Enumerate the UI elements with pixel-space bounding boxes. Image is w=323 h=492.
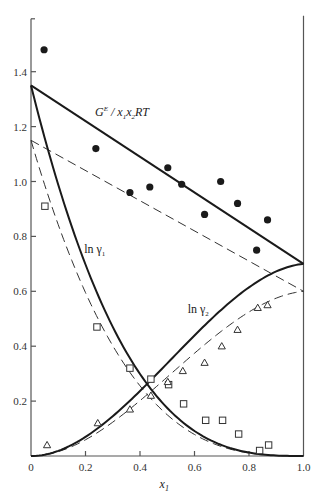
ge-label: GE / x1x2RT (95, 105, 150, 121)
open-square-marker (256, 447, 262, 453)
filled-circle-marker (178, 181, 185, 188)
chart: 0.20.40.60.81.01.21.400.20.40.60.81.0 GE… (0, 0, 323, 492)
y-tick-label: 0.8 (13, 230, 27, 242)
x-tick-label: 0.6 (188, 461, 202, 473)
filled-circle-marker (40, 46, 47, 53)
x-tick-label: 1.0 (297, 461, 311, 473)
open-triangle-marker (179, 367, 186, 373)
filled-circle-marker (264, 216, 271, 223)
x-axis-label: x1 (159, 477, 169, 492)
y-tick-label: 1.4 (13, 66, 27, 78)
data-markers (40, 46, 271, 454)
y-tick-label: 1.0 (13, 176, 27, 188)
filled-circle-marker (146, 183, 153, 190)
open-triangle-marker (218, 343, 225, 349)
open-square-marker (42, 203, 48, 209)
open-square-marker (127, 365, 133, 371)
axes: 0.20.40.60.81.01.21.400.20.40.60.81.0 (13, 16, 311, 473)
y-tick-label: 0.2 (13, 395, 27, 407)
ln-gamma2-label: ln γ2 (188, 302, 210, 318)
filled-circle-marker (217, 178, 224, 185)
filled-circle-marker (234, 200, 241, 207)
open-square-marker (235, 431, 241, 437)
x-tick-label: 0.4 (133, 461, 147, 473)
open-triangle-marker (201, 359, 208, 365)
ge-line-dashed (31, 140, 304, 291)
filled-circle-marker (164, 164, 171, 171)
ge-line-solid (31, 85, 304, 263)
open-triangle-marker (43, 441, 50, 447)
x-tick-label: 0 (28, 461, 34, 473)
filled-circle-marker (126, 189, 133, 196)
ln-gamma2-curve-dashed (31, 291, 304, 456)
fit-curves (31, 85, 304, 456)
open-square-marker (202, 417, 208, 423)
open-triangle-marker (94, 419, 101, 425)
x-tick-label: 0.2 (79, 461, 93, 473)
open-square-marker (148, 376, 154, 382)
open-square-marker (265, 442, 271, 448)
filled-circle-marker (201, 211, 208, 218)
curve-labels: GE / x1x2RT ln γ1 ln γ2 (84, 105, 209, 319)
ln-gamma2-curve-solid (31, 264, 304, 456)
open-square-marker (219, 417, 225, 423)
y-tick-label: 0.6 (13, 285, 27, 297)
y-tick-label: 0.4 (13, 340, 27, 352)
open-triangle-marker (234, 326, 241, 332)
open-triangle-marker (264, 301, 271, 307)
open-triangle-marker (254, 304, 261, 310)
ln-gamma1-label: ln γ1 (84, 242, 106, 258)
filled-circle-marker (92, 145, 99, 152)
y-tick-label: 1.2 (13, 121, 27, 133)
x-tick-label: 0.8 (242, 461, 256, 473)
open-square-marker (180, 401, 186, 407)
filled-circle-marker (253, 247, 260, 254)
ln-gamma1-curve-solid (31, 85, 304, 456)
open-square-marker (94, 324, 100, 330)
